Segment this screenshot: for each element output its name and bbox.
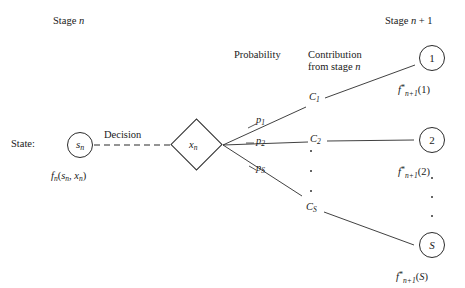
probability-label-1: p1 [256, 115, 265, 127]
contribution-header-line2: from stage n [308, 61, 362, 73]
branch-line-2b [327, 140, 414, 141]
prob-tick-s [249, 166, 256, 170]
ellipsis-dot [431, 196, 433, 198]
branch-line-2a [223, 142, 308, 145]
state-node-circle: sn [67, 132, 93, 158]
contribution-column-header: Contribution from stage n [308, 49, 362, 74]
outcome-node-s: S [419, 232, 445, 258]
decision-label: Decision [104, 130, 141, 141]
contribution-label-2: C2 [310, 134, 321, 146]
state-label: State: [11, 139, 35, 150]
right-vertical-ellipsis [430, 177, 434, 217]
contribution-header-line1: Contribution [308, 49, 362, 61]
prob-tick-1 [248, 124, 256, 128]
contribution-label-s: CS [306, 202, 317, 214]
ellipsis-dot [431, 215, 433, 217]
ellipsis-dot [310, 170, 312, 172]
stage-n-header: Stage n [53, 16, 84, 27]
middle-vertical-ellipsis [309, 150, 313, 192]
stage-n-plus-1-header: Stage n + 1 [385, 16, 433, 27]
branch-line-s-b [324, 212, 414, 245]
decision-node-symbol: xn [189, 139, 197, 152]
ellipsis-dot [431, 177, 433, 179]
ellipsis-dot [310, 190, 312, 192]
stage-n-symbol: n [79, 15, 84, 26]
state-node-symbol: sn [76, 138, 84, 152]
probability-column-header: Probability [234, 49, 281, 61]
outcome-node-1: 1 [419, 45, 445, 71]
outcome-node-s-label: S [429, 239, 435, 251]
stage-n-plus-1-symbol: n [411, 15, 416, 26]
contribution-label-1: C1 [309, 92, 320, 104]
ellipsis-dot [310, 150, 312, 152]
probability-label-s: pS [256, 163, 265, 175]
state-value-function-label: fn(sn, xn) [51, 171, 86, 183]
outcome-node-2: 2 [419, 127, 445, 153]
dynamic-programming-diagram: Stage n Stage n + 1 Probability Contribu… [0, 0, 465, 288]
outcome-value-label-1: f*n+1(1) [398, 84, 430, 97]
outcome-value-label-s: f*n+1(S) [396, 271, 428, 284]
outcome-value-label-2: f*n+1(2) [398, 166, 430, 179]
probability-label-2: p2 [256, 136, 265, 148]
outcome-node-1-label: 1 [429, 52, 435, 64]
outcome-node-2-label: 2 [429, 134, 435, 146]
